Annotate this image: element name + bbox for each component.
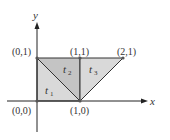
vertex-dot (35, 56, 38, 59)
point-label-0-1: (0,1) (12, 46, 31, 58)
point-label-0-0: (0,0) (12, 105, 31, 117)
triangulation-diagram: x y (0,0) (0,1) (1,1) (2,1) (1,0) t 1 t … (0, 0, 170, 140)
x-axis-label: x (149, 95, 155, 107)
point-label-2-1: (2,1) (117, 46, 136, 58)
y-axis-arrow-icon (35, 22, 40, 29)
point-label-1-0: (1,0) (70, 105, 89, 117)
svg-text:2: 2 (68, 69, 72, 77)
vertex-dot (35, 99, 38, 102)
svg-text:3: 3 (94, 69, 98, 77)
point-label-1-1: (1,1) (70, 46, 89, 58)
x-axis-arrow-icon (141, 99, 148, 104)
triangle-t3 (80, 58, 123, 101)
vertex-dot (78, 99, 81, 102)
svg-text:1: 1 (50, 90, 54, 98)
y-axis-label: y (32, 9, 38, 21)
